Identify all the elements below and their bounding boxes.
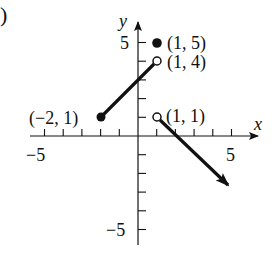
x-tick-label-5: 5 [226,145,235,165]
open-point-1-4 [153,57,161,65]
graph-figure: ) x −5 [0,0,275,260]
x-tick-label-neg5: −5 [26,145,45,165]
segment-1 [97,57,162,122]
coordinate-plane: x −5 5 y 5 −5 [0,0,275,260]
y-axis: y 5 −5 [106,11,146,245]
y-axis-label: y [117,11,127,31]
closed-point-1-5 [152,38,162,48]
y-tick-label-5: 5 [120,33,129,53]
annotation-1-5: (1, 5) [167,33,206,54]
annotation-1-4: (1, 4) [167,52,206,73]
y-tick-label-neg5: −5 [106,220,125,240]
open-point-1-1 [153,113,161,121]
part-label: ) [0,2,7,28]
annotation-neg2-1: (−2, 1) [29,108,78,129]
x-axis-label: x [253,114,262,134]
annotation-1-1: (1, 1) [166,106,205,127]
closed-point-neg2-1 [97,113,106,122]
